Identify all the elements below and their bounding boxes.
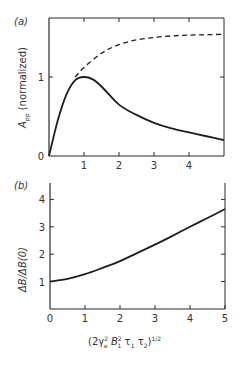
- panel-a-y-axis-label: App (normalized): [17, 47, 30, 128]
- series-solid-line: [50, 209, 225, 282]
- series-dashed-line: [75, 34, 224, 77]
- x-tick-label: 4: [187, 313, 193, 324]
- panel-b-x-axis-label: (2γ2e B21 τ1 τ2)1/2: [88, 335, 161, 349]
- y-tick-label: 3: [39, 222, 45, 233]
- x-tick-label: 2: [116, 160, 122, 171]
- x-tick-label: 3: [152, 313, 158, 324]
- panel-a-plot: 123401: [38, 18, 224, 171]
- x-tick-label: 0: [47, 313, 53, 324]
- y-tick-label: 0: [38, 151, 44, 162]
- x-tick-label: 4: [186, 160, 192, 171]
- y-tick-label: 1: [38, 72, 44, 83]
- panel-b-plot: 0123451234: [39, 183, 229, 324]
- series-solid-line: [49, 77, 224, 156]
- y-tick-label: 2: [39, 249, 45, 260]
- x-tick-label: 5: [222, 313, 228, 324]
- panel-a-label: (a): [14, 16, 28, 27]
- panel-b-y-axis-label: ΔB/ΔB(0): [17, 247, 28, 292]
- x-tick-label: 1: [81, 160, 87, 171]
- x-tick-label: 2: [117, 313, 123, 324]
- x-tick-label: 1: [82, 313, 88, 324]
- y-tick-label: 4: [39, 194, 45, 205]
- figure-plot: 123401 0123451234: [0, 0, 242, 367]
- panel-b-label: (b): [14, 180, 28, 191]
- y-tick-label: 1: [39, 277, 45, 288]
- x-tick-label: 3: [151, 160, 157, 171]
